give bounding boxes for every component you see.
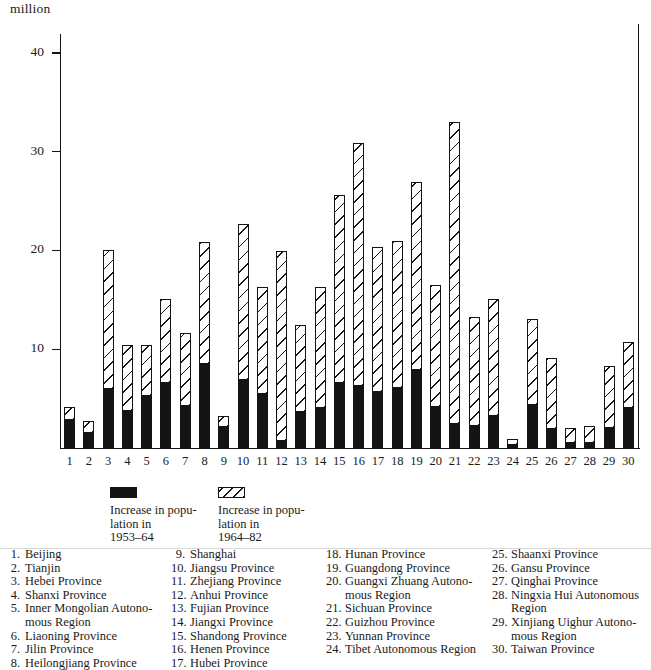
key-entry-number: 1.: [6, 548, 25, 562]
bar-segment-1953-64: [334, 383, 345, 448]
key-entry: 26.Gansu Province: [492, 562, 651, 576]
key-entry-number: 13.: [171, 602, 190, 616]
bar-segment-1964-82: [199, 242, 210, 365]
key-entry-number: 26.: [492, 562, 511, 576]
key-entry-name: Qinghai Province: [511, 575, 651, 589]
key-entry: 17.Hubei Province: [171, 657, 326, 670]
bar-segment-1964-82: [218, 416, 229, 427]
key-entry: 18.Hunan Province: [326, 548, 492, 562]
bar-segment-1964-82: [449, 122, 460, 424]
bar-segment-1964-82: [488, 299, 499, 417]
key-entry: 25.Shaanxi Province: [492, 548, 651, 562]
bar-segment-1953-64: [527, 405, 538, 448]
key-column-2: 9.Shanghai10.Jiangsu Province11.Zhejiang…: [171, 548, 326, 670]
chart-legend: Increase in popu- lation in 1953–64 Incr…: [0, 487, 651, 545]
key-entry-name: Shanghai: [190, 548, 326, 562]
bar-segment-1964-82: [469, 317, 480, 427]
key-entry: 1.Beijing: [6, 548, 171, 562]
bar-segment-1964-82: [315, 287, 326, 408]
bar-30: [623, 342, 634, 448]
bar-segment-1953-64: [64, 420, 75, 448]
key-entry: 28.Ningxia Hui Autonomous Region: [492, 589, 651, 616]
bar-segment-1964-82: [180, 333, 191, 405]
bar-segment-1964-82: [546, 358, 557, 429]
key-entry: 3.Hebei Province: [6, 575, 171, 589]
bar-3: [103, 250, 114, 448]
key-entry-number: 20.: [326, 575, 345, 589]
key-entry: 4.Shanxi Province: [6, 589, 171, 603]
key-entry-number: 28.: [492, 589, 511, 603]
key-entry-name: Hebei Province: [25, 575, 171, 589]
key-entry: 22.Guizhou Province: [326, 616, 492, 630]
bar-27: [565, 428, 576, 448]
key-entry-number: 14.: [171, 616, 190, 630]
bar-5: [141, 345, 152, 448]
key-entry: 20.Guangxi Zhuang Autono- mous Region: [326, 575, 492, 602]
bar-segment-1953-64: [315, 408, 326, 449]
bar-segment-1964-82: [83, 421, 94, 433]
bar-segment-1953-64: [122, 411, 133, 448]
key-entry: 15.Shandong Province: [171, 630, 326, 644]
bar-segment-1953-64: [546, 429, 557, 448]
bar-segment-1964-82: [392, 241, 403, 388]
bar-29: [604, 366, 615, 448]
key-entry-number: 30.: [492, 643, 511, 657]
bar-segment-1964-82: [623, 342, 634, 408]
bar-segment-1964-82: [238, 224, 249, 380]
bar-16: [353, 143, 364, 448]
key-entry-number: 5.: [6, 602, 25, 616]
bar-segment-1953-64: [488, 416, 499, 448]
key-entry-number: 2.: [6, 562, 25, 576]
solid-black-swatch: [110, 487, 137, 498]
key-entry-number: 4.: [6, 589, 25, 603]
key-entry: 16.Henen Province: [171, 643, 326, 657]
bar-18: [392, 241, 403, 448]
key-entry: 7.Jilin Province: [6, 643, 171, 657]
bar-segment-1964-82: [411, 182, 422, 370]
bar-segment-1953-64: [199, 364, 210, 448]
province-key: 1.Beijing2.Tianjin3.Hebei Province4.Shan…: [0, 548, 651, 651]
bar-segment-1964-82: [257, 287, 268, 394]
bar-segment-1953-64: [160, 383, 171, 448]
key-entry-number: 23.: [326, 630, 345, 644]
x-tick-label: 30: [615, 454, 641, 469]
key-entry: 9.Shanghai: [171, 548, 326, 562]
key-entry-name: Taiwan Province: [511, 643, 651, 657]
bar-2: [83, 421, 94, 448]
bar-segment-1964-82: [141, 345, 152, 395]
key-entry-name: Yunnan Province: [345, 630, 492, 644]
key-entry-name: Fujian Province: [190, 602, 326, 616]
bar-segment-1953-64: [623, 408, 634, 448]
bar-segment-1953-64: [469, 426, 480, 448]
bar-segment-1953-64: [411, 370, 422, 448]
bar-segment-1964-82: [430, 285, 441, 407]
bar-segment-1964-82: [295, 325, 306, 413]
key-entry-name: Shaanxi Province: [511, 548, 651, 562]
key-entry-number: 8.: [6, 657, 25, 670]
key-entry: 14.Jiangxi Province: [171, 616, 326, 630]
key-entry: 5.Inner Mongolian Autono- mous Region: [6, 602, 171, 629]
bar-segment-1953-64: [83, 433, 94, 448]
bar-segment-1964-82: [276, 251, 287, 441]
bar-segment-1964-82: [353, 143, 364, 386]
key-entry-number: 6.: [6, 630, 25, 644]
y-tick-label: 20: [4, 241, 44, 257]
y-tick-label: 40: [4, 44, 44, 60]
legend-item-1953-64: Increase in popu- lation in 1953–64: [110, 487, 197, 545]
bar-segment-1964-82: [160, 299, 171, 383]
bar-segment-1953-64: [276, 441, 287, 448]
bar-14: [315, 287, 326, 448]
key-entry-name: Guizhou Province: [345, 616, 492, 630]
bar-segment-1953-64: [353, 386, 364, 448]
bar-13: [295, 325, 306, 448]
key-entry-name: Jilin Province: [25, 643, 171, 657]
y-tick-label: 30: [4, 143, 44, 159]
key-entry-name: Liaoning Province: [25, 630, 171, 644]
key-entry-number: 15.: [171, 630, 190, 644]
key-entry-name: Jiangxi Province: [190, 616, 326, 630]
key-entry-name: Henen Province: [190, 643, 326, 657]
key-entry-name: Beijing: [25, 548, 171, 562]
bar-10: [238, 224, 249, 448]
bar-segment-1964-82: [334, 195, 345, 383]
